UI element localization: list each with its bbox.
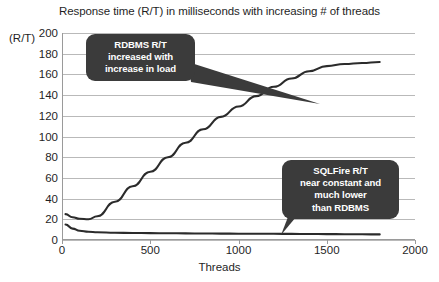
y-tick-label: 100 bbox=[39, 131, 58, 143]
callout-line: than RDBMS bbox=[290, 202, 391, 214]
x-tick-label: 1500 bbox=[314, 244, 340, 256]
x-tick-label: 1000 bbox=[226, 244, 252, 256]
callout-line: increase in load bbox=[94, 63, 187, 75]
x-axis-title: Threads bbox=[0, 261, 439, 273]
y-tick-label: 20 bbox=[45, 213, 58, 225]
y-tick-label: 160 bbox=[39, 68, 58, 80]
sqlfire-annotation-callout: SQLFire R/Tnear constant andmuch lowerth… bbox=[282, 160, 399, 219]
series-line-sqlfire bbox=[66, 224, 380, 234]
x-tick-label: 0 bbox=[59, 244, 65, 256]
chart-screenshot: Response time (R/T) in milliseconds with… bbox=[0, 0, 439, 282]
callout-line: increased with bbox=[94, 51, 187, 63]
callout-line: much lower bbox=[290, 189, 391, 201]
x-tick-label: 500 bbox=[141, 244, 160, 256]
callout-line: SQLFire R/T bbox=[290, 165, 391, 177]
y-tick-label: 180 bbox=[39, 48, 58, 60]
y-tick-label: 40 bbox=[45, 193, 58, 205]
x-axis-tick-labels: 0500100015002000 bbox=[62, 244, 415, 260]
rdbms-annotation-callout: RDBMS R/Tincreased withincrease in load bbox=[86, 34, 195, 81]
y-tick-label: 80 bbox=[45, 151, 58, 163]
callout-line: near constant and bbox=[290, 177, 391, 189]
y-tick-label: 120 bbox=[39, 110, 58, 122]
chart-title: Response time (R/T) in milliseconds with… bbox=[0, 5, 439, 17]
y-tick-label: 60 bbox=[45, 172, 58, 184]
x-tick-label: 2000 bbox=[402, 244, 428, 256]
y-tick-label: 0 bbox=[52, 234, 58, 246]
callout-line: RDBMS R/T bbox=[94, 39, 187, 51]
y-tick-label: 200 bbox=[39, 27, 58, 39]
y-axis-tick-labels: 020406080100120140160180200 bbox=[14, 33, 58, 240]
y-tick-label: 140 bbox=[39, 89, 58, 101]
